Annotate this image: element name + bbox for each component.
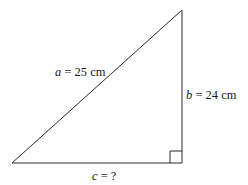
right-triangle-diagram: a = 25 cm b = 24 cm c = ? (0, 0, 248, 185)
vertical-leg-value: = 24 cm (192, 88, 236, 102)
triangle-shape (12, 10, 182, 163)
horizontal-leg-value: = ? (98, 169, 117, 183)
horizontal-leg-label: c = ? (92, 169, 117, 183)
right-angle-marker (170, 151, 182, 163)
hypotenuse-label: a = 25 cm (55, 65, 106, 79)
vertical-leg-label: b = 24 cm (186, 88, 237, 102)
hypotenuse-value: = 25 cm (61, 65, 105, 79)
